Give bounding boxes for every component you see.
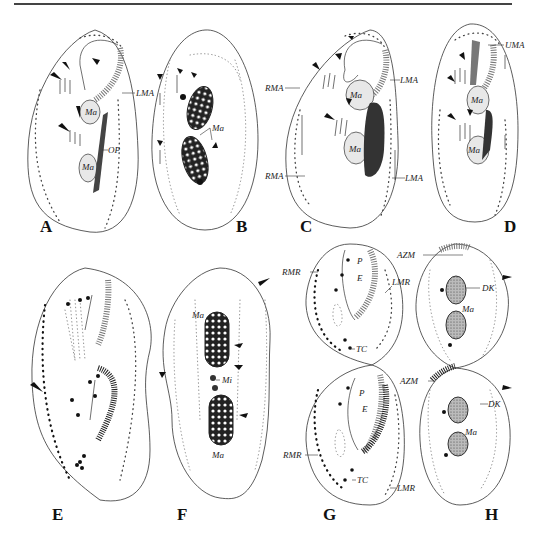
panel-label-d: D [504, 217, 516, 236]
label-ma: Ma [211, 450, 224, 460]
label-rmr: RMR [281, 267, 301, 277]
label-e: E [361, 404, 368, 414]
panel-f: Ma Mi Ma F [159, 268, 270, 524]
panel-label-a: A [40, 217, 53, 236]
label-rma: RMA [264, 83, 284, 93]
label-lmr: LMR [396, 483, 416, 493]
panel-c: RMA LMA Ma Ma RMA LMA C [264, 30, 424, 236]
panel-h: AZM DK Ma AZM DK Ma H [396, 244, 512, 524]
label-ma: Ma [461, 304, 474, 314]
panel-label-f: F [177, 505, 187, 524]
label-op: OP [108, 145, 120, 155]
panel-label-g: G [323, 505, 336, 524]
label-rma: RMA [264, 171, 284, 181]
panel-label-h: H [485, 505, 498, 524]
label-ma: Ma [81, 162, 94, 172]
label-p: P [356, 256, 363, 266]
label-azm: AZM [399, 376, 419, 386]
label-ma: Ma [349, 90, 362, 100]
label-lma: LMA [135, 88, 155, 98]
panel-a: LMA Ma Ma OP A [28, 30, 155, 236]
label-ma: Ma [467, 145, 480, 155]
label-tc: TC [356, 344, 368, 354]
panel-b: Ma B [152, 30, 258, 236]
label-lma: LMA [399, 75, 419, 85]
figure-plate: LMA Ma Ma OP A Ma B [0, 0, 544, 538]
label-ma: Ma [470, 95, 483, 105]
panel-label-c: C [300, 217, 312, 236]
panel-d: UMA Ma Ma D [432, 24, 525, 236]
label-p: P [358, 388, 365, 398]
label-lma: LMA [404, 173, 424, 183]
label-dk: DK [487, 399, 501, 409]
panel-label-e: E [52, 505, 63, 524]
panel-e: E [30, 268, 151, 524]
label-ma: Ma [84, 107, 97, 117]
label-azm: AZM [396, 250, 416, 260]
label-ma: Ma [348, 144, 361, 154]
label-ma: Ma [211, 123, 224, 133]
label-tc: TC [357, 475, 369, 485]
label-rmr: RMR [282, 450, 302, 460]
label-dk: DK [481, 283, 495, 293]
label-ma: Ma [191, 310, 204, 320]
panel-g: RMR P E LMR TC P E RMR TC LMR G [281, 244, 416, 524]
label-mi: Mi [221, 375, 232, 385]
panel-label-b: B [236, 217, 247, 236]
label-ma: Ma [464, 427, 477, 437]
label-uma: UMA [505, 40, 525, 50]
label-e: E [356, 273, 363, 283]
label-lmr: LMR [391, 277, 411, 287]
